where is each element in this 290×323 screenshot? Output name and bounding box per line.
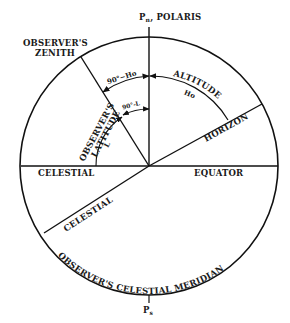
- altitude-label: ALTITUDE: [172, 68, 224, 101]
- north-pole-label: Pn, POLARIS: [139, 12, 201, 23]
- co-latitude-arc: [123, 109, 149, 115]
- co-altitude-label: 90°−Ho: [106, 68, 138, 86]
- altitude-symbol: Ho: [183, 88, 197, 101]
- celestial-sphere-diagram: Pn, POLARIS OBSERVER'S ZENITH 90°−Ho ALT…: [0, 0, 290, 323]
- south-pole-label: Ps: [143, 305, 154, 316]
- zenith-label-line2: ZENITH: [35, 48, 75, 58]
- celestial-left-label: CELESTIAL: [38, 168, 95, 178]
- co-latitude-label: 90°-L: [121, 99, 141, 110]
- equator-label: EQUATOR: [194, 168, 244, 178]
- meridian-label: OBSERVER'S CELESTIAL MERIDIAN: [56, 250, 225, 296]
- celestial-lower-label: CELESTIAL: [62, 195, 115, 234]
- zenith-label-line1: OBSERVER'S: [23, 38, 88, 48]
